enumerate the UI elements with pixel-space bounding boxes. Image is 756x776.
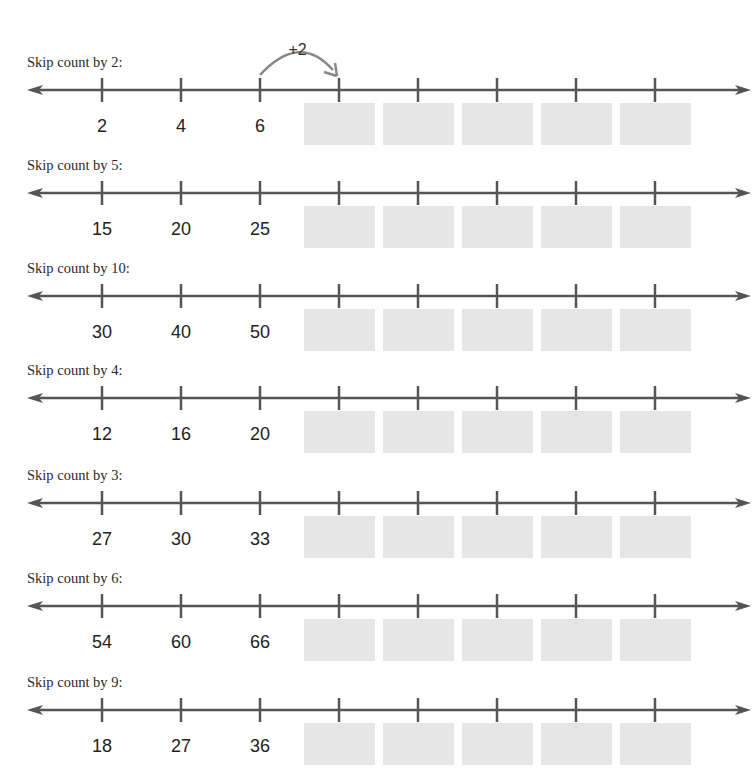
answer-box[interactable] <box>383 411 454 453</box>
number-line-row-step-10: Skip count by 10: 304050 <box>0 246 756 346</box>
answer-box[interactable] <box>541 723 612 765</box>
given-number: 15 <box>77 219 127 240</box>
answer-box[interactable] <box>462 206 533 248</box>
number-line-row-step-4: Skip count by 4: 121620 <box>0 348 756 448</box>
number-line-row-step-3: Skip count by 3: 273033 <box>0 453 756 553</box>
given-number: 18 <box>77 736 127 757</box>
answer-box[interactable] <box>304 619 375 661</box>
answer-box[interactable] <box>462 619 533 661</box>
answer-box[interactable] <box>620 411 691 453</box>
given-number: 27 <box>156 736 206 757</box>
answer-box[interactable] <box>304 309 375 351</box>
answer-box[interactable] <box>383 619 454 661</box>
given-number: 30 <box>77 322 127 343</box>
given-number: 20 <box>156 219 206 240</box>
answer-box[interactable] <box>541 309 612 351</box>
given-number: 27 <box>77 529 127 550</box>
given-number: 12 <box>77 424 127 445</box>
given-number: 16 <box>156 424 206 445</box>
answer-box[interactable] <box>620 723 691 765</box>
answer-box[interactable] <box>620 619 691 661</box>
hop-label: +2 <box>289 41 307 59</box>
answer-box[interactable] <box>541 206 612 248</box>
given-number: 2 <box>77 116 127 137</box>
answer-box[interactable] <box>462 309 533 351</box>
given-number: 33 <box>235 529 285 550</box>
answer-box[interactable] <box>620 206 691 248</box>
number-line-row-step-6: Skip count by 6: 546066 <box>0 556 756 656</box>
given-number: 4 <box>156 116 206 137</box>
answer-box[interactable] <box>304 411 375 453</box>
answer-box[interactable] <box>462 516 533 558</box>
answer-box[interactable] <box>620 516 691 558</box>
answer-box[interactable] <box>462 723 533 765</box>
answer-box[interactable] <box>541 516 612 558</box>
answer-box[interactable] <box>541 411 612 453</box>
number-line-row-step-9: Skip count by 9: 182736 <box>0 660 756 760</box>
given-number: 30 <box>156 529 206 550</box>
answer-box[interactable] <box>383 723 454 765</box>
hop-arrowhead-icon <box>324 63 337 76</box>
given-number: 54 <box>77 632 127 653</box>
answer-box[interactable] <box>304 103 375 145</box>
given-number: 60 <box>156 632 206 653</box>
answer-box[interactable] <box>383 103 454 145</box>
given-number: 50 <box>235 322 285 343</box>
given-number: 20 <box>235 424 285 445</box>
given-number: 66 <box>235 632 285 653</box>
given-number: 36 <box>235 736 285 757</box>
answer-box[interactable] <box>383 206 454 248</box>
number-line-row-step-5: Skip count by 5: 152025 <box>0 143 756 243</box>
answer-box[interactable] <box>383 309 454 351</box>
answer-box[interactable] <box>620 309 691 351</box>
given-number: 40 <box>156 322 206 343</box>
answer-box[interactable] <box>620 103 691 145</box>
given-number: 25 <box>235 219 285 240</box>
answer-box[interactable] <box>462 411 533 453</box>
answer-box[interactable] <box>383 516 454 558</box>
answer-box[interactable] <box>304 723 375 765</box>
answer-box[interactable] <box>304 516 375 558</box>
given-number: 6 <box>235 116 285 137</box>
answer-box[interactable] <box>462 103 533 145</box>
answer-box[interactable] <box>541 619 612 661</box>
number-line-row-step-2: Skip count by 2: +2246 <box>0 40 756 140</box>
answer-box[interactable] <box>304 206 375 248</box>
answer-box[interactable] <box>541 103 612 145</box>
